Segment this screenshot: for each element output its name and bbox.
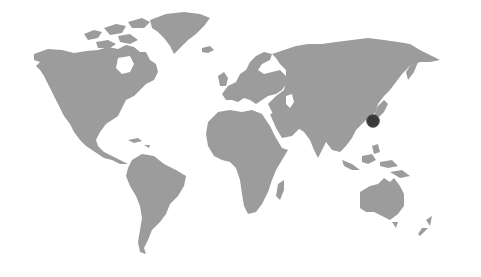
arctic-islands: [84, 18, 150, 48]
madagascar: [276, 180, 284, 200]
iceland: [202, 46, 214, 53]
new-guinea: [390, 170, 410, 178]
world-map-svg: [0, 0, 481, 277]
great-britain: [218, 72, 228, 86]
southeast-asia-islands: [342, 144, 398, 170]
location-marker-japan[interactable]: [367, 115, 380, 128]
world-map: [0, 0, 481, 277]
tasmania: [392, 222, 398, 228]
continent-south-america: [126, 154, 186, 254]
continent-north-america: [34, 45, 158, 164]
new-zealand: [418, 216, 432, 236]
caribbean: [128, 138, 150, 148]
greenland: [150, 12, 210, 54]
continent-australia: [360, 178, 404, 220]
continent-asia: [268, 38, 440, 158]
